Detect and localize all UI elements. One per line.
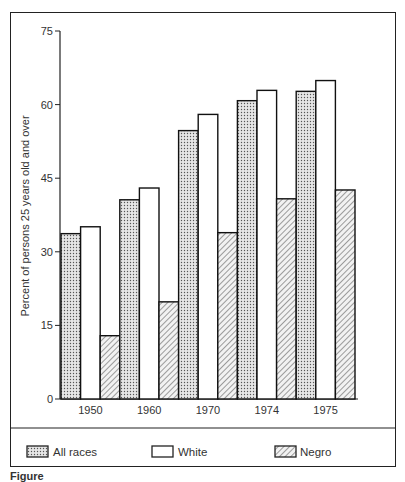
bar [296,91,316,399]
y-tick-label: 75 [41,25,53,37]
bars [61,81,355,399]
bar [257,90,277,399]
bar [179,131,199,399]
legend: All races White Negro [27,446,331,458]
x-tick-label: 1960 [137,404,161,416]
svg-text:Negro: Negro [300,446,331,458]
bar [139,188,159,399]
svg-text:White: White [178,446,207,458]
bar [81,227,101,399]
bar [316,81,336,399]
bar [335,190,355,399]
x-tick-label: 1974 [255,404,279,416]
x-axis-labels: 19501960197019741975 [78,404,338,416]
legend-item-all-races: All races [27,446,97,458]
bar [218,233,238,399]
x-tick-label: 1975 [313,404,337,416]
y-tick-label: 60 [41,99,53,111]
bar [277,199,297,399]
y-axis-label: Percent of persons 25 years old and over [19,115,31,317]
hatch-swatch-icon [275,446,296,457]
x-tick-label: 1970 [196,404,220,416]
y-tick-label: 15 [41,319,53,331]
legend-item-white: White [152,446,207,458]
x-tick-label: 1950 [78,404,102,416]
y-tick-label: 0 [47,393,53,405]
bar [159,302,179,399]
bar [198,114,218,399]
dots-swatch-icon [27,446,48,457]
bar [61,234,81,399]
blank-swatch-icon [152,446,173,457]
bar [237,101,257,399]
bar [120,200,140,399]
svg-text:All races: All races [53,446,97,458]
figure-caption: Figure [10,470,44,482]
y-tick-label: 45 [41,172,53,184]
bar [100,336,120,399]
y-tick-label: 30 [41,246,53,258]
legend-item-negro: Negro [275,446,331,458]
